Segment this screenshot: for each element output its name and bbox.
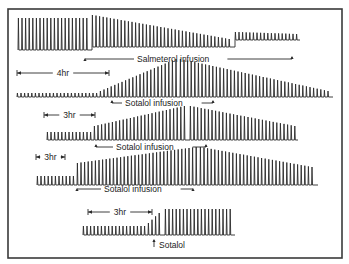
- arrowhead-icon: [110, 100, 113, 103]
- infusion-label: Salmeterol infusion: [137, 54, 210, 64]
- contraction-traces-figure: Salmeterol infusion4hrSotalol infusionSo…: [0, 0, 349, 264]
- panel-sotalol-3: Sotalol infusion3hr: [36, 147, 318, 194]
- infusion-label: Sotalol: [159, 240, 185, 250]
- duration-label: 3hr: [44, 152, 56, 162]
- arrowhead-icon: [290, 56, 293, 59]
- panel-sotalol-2: Sotalol infusion3hr: [44, 106, 298, 152]
- panel-salmeterol: Salmeterol infusion4hr: [17, 15, 300, 78]
- panel-sotalol-4: Sotalol3hr: [83, 207, 235, 250]
- panels-group: Salmeterol infusion4hrSotalol infusionSo…: [17, 15, 333, 250]
- arrowhead-icon: [75, 188, 78, 191]
- time-scale-bracket: 4hr: [17, 68, 109, 78]
- contraction-trace: [47, 106, 298, 140]
- contraction-trace: [17, 59, 333, 97]
- panel-sotalol-1: Sotalol infusion: [17, 59, 333, 108]
- arrowhead-icon: [94, 144, 97, 147]
- duration-label: 4hr: [57, 68, 69, 78]
- contraction-trace: [37, 147, 318, 185]
- infusion-label: Sotalol infusion: [125, 98, 183, 108]
- time-scale-bracket: 3hr: [88, 207, 152, 217]
- arrowhead-icon: [152, 239, 155, 242]
- arrowhead-icon: [83, 58, 86, 61]
- contraction-trace: [18, 15, 300, 50]
- arrowhead-icon: [191, 188, 194, 191]
- duration-label: 3hr: [114, 207, 126, 217]
- time-scale-bracket: 3hr: [36, 152, 65, 162]
- start-arrow-icon: [96, 145, 113, 147]
- time-scale-bracket: 3hr: [44, 110, 95, 120]
- contraction-trace: [83, 209, 235, 235]
- end-arrow-icon: [202, 101, 213, 103]
- infusion-label: Sotalol infusion: [104, 184, 162, 194]
- end-arrow-icon: [227, 57, 292, 59]
- infusion-label: Sotalol infusion: [116, 142, 174, 152]
- arrowhead-icon: [204, 144, 207, 147]
- arrowhead-icon: [211, 100, 214, 103]
- duration-label: 3hr: [63, 110, 75, 120]
- end-arrow-icon: [193, 145, 206, 147]
- start-arrow-icon: [112, 101, 122, 103]
